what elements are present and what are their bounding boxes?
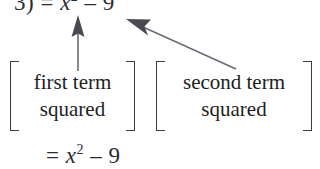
bracket-labels-row: first term squared second term squared <box>0 60 320 132</box>
left-bracket-icon <box>156 61 165 131</box>
first-term-label-line2: squared <box>40 96 105 123</box>
first-term-bracket-group: first term squared <box>10 60 135 132</box>
first-term-label-line1: first term <box>34 69 112 96</box>
result-equation-prefix: = <box>46 143 66 168</box>
right-bracket-icon <box>126 61 135 131</box>
result-equation-suffix: – 9 <box>84 143 121 168</box>
second-term-bracket-group: second term squared <box>156 60 312 132</box>
right-bracket-icon <box>303 61 312 131</box>
top-equation-variable: x <box>60 0 71 15</box>
second-term-label-line1: second term <box>183 69 285 96</box>
result-equation-variable: x <box>66 143 77 168</box>
result-equation: = x2 – 9 <box>46 136 120 169</box>
top-equation: 3) = x2 – 9 <box>14 0 115 17</box>
top-equation-prefix: 3) = <box>14 0 60 15</box>
top-equation-suffix: – 9 <box>78 0 115 15</box>
second-term-label-line2: squared <box>201 96 266 123</box>
left-bracket-icon <box>10 61 19 131</box>
math-annotation-figure: 3) = x2 – 9 first term squared second te… <box>0 0 320 169</box>
result-equation-exponent: 2 <box>76 142 84 157</box>
